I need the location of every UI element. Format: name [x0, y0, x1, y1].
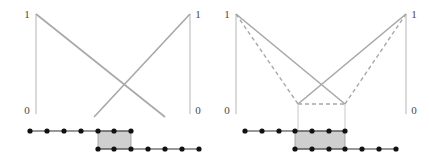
orbit-dot — [393, 146, 398, 151]
orbit-dot — [309, 128, 314, 133]
orbit-dot — [196, 146, 201, 151]
left-panel-right-axis-top-label: 1 — [195, 8, 201, 20]
orbit-dot — [376, 146, 381, 151]
orbit-dot — [128, 146, 133, 151]
orbit-dot — [162, 146, 167, 151]
orbit-dot — [359, 146, 364, 151]
orbit-dot — [61, 128, 66, 133]
right-panel-decreasing-branch — [236, 14, 345, 104]
orbit-dot — [242, 128, 247, 133]
orbit-dot — [342, 128, 347, 133]
orbit-dot — [95, 146, 100, 151]
right-panel-dashed-decreasing-branch — [236, 14, 298, 104]
right-panel-left-axis-top-label: 1 — [224, 8, 230, 20]
orbit-dot — [78, 128, 83, 133]
orbit-dot — [276, 128, 281, 133]
orbit-dot — [111, 128, 116, 133]
right-panel-right-axis-top-label: 1 — [411, 8, 417, 20]
orbit-dot — [292, 146, 297, 151]
orbit-dot — [111, 146, 116, 151]
right-panel-increasing-branch — [298, 14, 406, 104]
left-panel-shaded-box — [98, 131, 131, 149]
orbit-dot — [326, 128, 331, 133]
orbit-dot — [292, 128, 297, 133]
right-panel: 1 0 1 0 — [224, 8, 417, 152]
figure-canvas: 1 0 1 0 — [0, 0, 429, 158]
orbit-dot — [259, 128, 264, 133]
left-panel-left-axis-top-label: 1 — [24, 8, 30, 20]
left-panel-decreasing-branch — [36, 14, 165, 117]
orbit-dot — [27, 128, 32, 133]
orbit-dot — [309, 146, 314, 151]
left-panel-right-axis-bottom-label: 0 — [195, 104, 201, 116]
right-panel-dashed-increasing-branch — [345, 14, 406, 104]
orbit-dot — [179, 146, 184, 151]
orbit-dot — [44, 128, 49, 133]
orbit-dot — [342, 146, 347, 151]
figure-svg: 1 0 1 0 — [0, 0, 429, 158]
left-panel: 1 0 1 0 — [24, 8, 201, 152]
right-panel-left-axis-bottom-label: 0 — [224, 104, 230, 116]
left-panel-left-axis-bottom-label: 0 — [24, 104, 30, 116]
right-panel-shaded-box — [295, 131, 345, 149]
orbit-dot — [128, 128, 133, 133]
orbit-dot — [95, 128, 100, 133]
orbit-dot — [145, 146, 150, 151]
right-panel-right-axis-bottom-label: 0 — [411, 104, 417, 116]
orbit-dot — [326, 146, 331, 151]
left-panel-increasing-branch — [94, 14, 190, 117]
